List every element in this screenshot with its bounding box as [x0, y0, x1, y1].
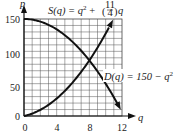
- y-tick-0: 0: [15, 111, 20, 122]
- chart: 0 4 8 12 0 50 100 150 q p S(q) = q2 + ( …: [0, 0, 174, 137]
- x-tick-12: 12: [117, 122, 127, 133]
- svg-text:4: 4: [107, 7, 113, 18]
- svg-text:S(q) = q2 +: S(q) = q2 +: [48, 4, 95, 17]
- x-tick-4: 4: [55, 122, 60, 133]
- svg-text:D(q) = 150 − q2: D(q) = 150 − q2: [103, 70, 174, 83]
- supply-curve: [24, 28, 109, 116]
- grid: [24, 19, 122, 116]
- y-axis-label: p: [19, 0, 25, 9]
- y-tick-100: 100: [5, 49, 20, 60]
- x-tick-0: 0: [23, 122, 28, 133]
- y-tick-150: 150: [5, 14, 20, 25]
- supply-arrow-icon: [107, 20, 113, 28]
- x-axis-label: q: [138, 112, 143, 123]
- svg-text:q: q: [118, 5, 123, 16]
- demand-arrow-icon: [114, 101, 120, 109]
- x-tick-8: 8: [88, 122, 93, 133]
- demand-equation: D(q) = 150 − q2: [103, 69, 174, 83]
- y-tick-50: 50: [10, 82, 20, 93]
- x-axis-arrow-icon: [128, 113, 136, 119]
- supply-equation: S(q) = q2 + ( 11 4 ) q: [48, 0, 123, 18]
